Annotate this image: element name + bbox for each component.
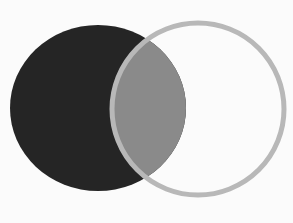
venn-diagram-svg bbox=[0, 0, 293, 223]
venn-diagram bbox=[0, 0, 293, 223]
